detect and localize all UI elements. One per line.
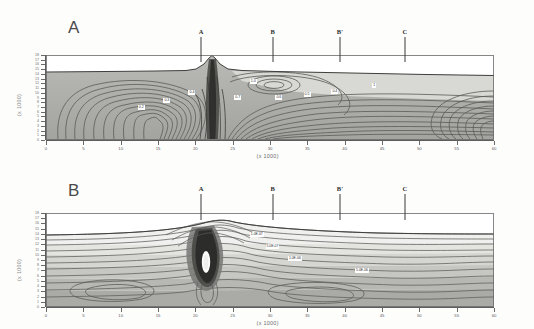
- x-axis-tick-label: 60: [484, 313, 504, 318]
- x-axis-tick-label: 30: [260, 146, 280, 151]
- y-axis-tick: [41, 218, 45, 219]
- section-marker-stem: [404, 37, 405, 62]
- panel-a-plot-area: 0.20.30.41.00.70.60.50.41: [46, 55, 494, 140]
- y-axis-tick-label: 8: [24, 100, 39, 104]
- y-axis-tick: [41, 281, 45, 282]
- x-axis-tick: [382, 308, 383, 312]
- section-marker-label: C: [403, 185, 408, 192]
- contour-value-label: 5.0E-06: [355, 268, 369, 273]
- y-axis-tick: [41, 250, 45, 251]
- x-axis-tick-label: 15: [148, 313, 168, 318]
- y-axis-tick-label: 12: [24, 81, 39, 85]
- contour-value-label: 0.4: [188, 90, 195, 95]
- section-marker-c: C: [404, 28, 405, 53]
- y-axis-tick: [41, 83, 45, 84]
- y-axis-tick-label: 9: [24, 258, 39, 262]
- x-axis-tick-label: 60: [484, 146, 504, 151]
- y-axis-tick: [41, 74, 45, 75]
- y-axis-tick: [41, 239, 45, 240]
- x-axis-tick-label: 55: [447, 146, 467, 151]
- section-marker-label: B': [337, 185, 343, 192]
- x-axis-tick-label: 5: [73, 313, 93, 318]
- y-axis-tick: [41, 64, 45, 65]
- y-axis-tick-label: 6: [24, 274, 39, 278]
- y-axis-tick-label: 8: [24, 263, 39, 267]
- y-axis-tick: [41, 297, 45, 298]
- y-axis-tick: [41, 93, 45, 94]
- y-axis-tick-label: 16: [24, 221, 39, 225]
- y-axis-tick-label: 15: [24, 67, 39, 71]
- y-axis-tick-label: 13: [24, 77, 39, 81]
- y-axis-tick: [41, 229, 45, 230]
- section-marker-stem: [201, 194, 202, 220]
- y-axis-tick: [41, 88, 45, 89]
- section-marker-label: B: [271, 185, 275, 192]
- y-axis-tick-label: 0: [24, 138, 39, 142]
- x-axis-tick-label: 30: [260, 313, 280, 318]
- y-axis-tick: [41, 121, 45, 122]
- section-marker-stem: [272, 194, 273, 220]
- x-axis-tick-label: 0: [36, 313, 56, 318]
- x-axis-tick: [382, 141, 383, 145]
- section-marker-label: C: [403, 28, 408, 35]
- section-marker-b-prime: B': [339, 185, 340, 211]
- y-axis-tick-label: 4: [24, 284, 39, 288]
- x-axis-tick: [419, 308, 420, 312]
- section-marker-b: B: [272, 28, 273, 53]
- section-marker-b-prime: B': [339, 28, 340, 53]
- x-axis-tick-label: 45: [372, 146, 392, 151]
- section-marker-c: C: [404, 185, 405, 211]
- y-axis-tick-label: 17: [24, 216, 39, 220]
- x-axis-tick-label: 40: [335, 146, 355, 151]
- y-axis-tick-label: 0: [24, 305, 39, 309]
- y-axis-tick: [41, 276, 45, 277]
- x-axis-tick: [46, 141, 47, 145]
- y-axis-tick-label: 2: [24, 295, 39, 299]
- x-axis-tick: [270, 308, 271, 312]
- y-axis-tick-label: 3: [24, 124, 39, 128]
- x-axis-tick: [457, 141, 458, 145]
- x-axis-tick: [233, 141, 234, 145]
- section-marker-label: A: [199, 185, 204, 192]
- section-marker-label: B': [337, 28, 343, 35]
- y-axis-tick-label: 11: [24, 248, 39, 252]
- x-axis-tick: [419, 141, 420, 145]
- y-axis-tick-label: 14: [24, 232, 39, 236]
- contour-value-label: 0.3: [163, 98, 170, 103]
- section-marker-label: B: [271, 28, 275, 35]
- section-marker-stem: [339, 37, 340, 62]
- y-axis-line: [45, 55, 46, 140]
- y-axis-tick: [41, 234, 45, 235]
- panel-a-letter: A: [68, 18, 80, 38]
- y-axis-tick-label: 5: [24, 114, 39, 118]
- y-axis-tick: [41, 107, 45, 108]
- y-axis-tick-label: 12: [24, 242, 39, 246]
- contour-value-label: 0.4: [331, 89, 338, 94]
- y-axis-tick: [41, 102, 45, 103]
- contour-value-label: 0.5: [304, 92, 311, 97]
- x-axis-tick-label: 40: [335, 313, 355, 318]
- y-axis-tick: [41, 55, 45, 56]
- y-axis-tick: [41, 126, 45, 127]
- y-axis-tick-label: 16: [24, 62, 39, 66]
- y-axis-tick: [41, 98, 45, 99]
- y-axis-tick: [41, 270, 45, 271]
- y-axis-tick-label: 18: [24, 53, 39, 57]
- x-axis-tick: [83, 308, 84, 312]
- y-axis-tick-label: 5: [24, 279, 39, 283]
- x-axis-tick-label: 50: [409, 313, 429, 318]
- panel-a: A (x 1000) (x 1000): [0, 0, 534, 164]
- panel-a-y-axis-title: (x 1000): [16, 94, 22, 116]
- contour-value-label: 0.7: [234, 95, 241, 100]
- section-marker-stem: [404, 194, 405, 220]
- x-axis-tick-label: 15: [148, 146, 168, 151]
- x-axis-tick-label: 10: [111, 146, 131, 151]
- section-marker-stem: [272, 37, 273, 62]
- panel-b-y-axis-title: (x 1000): [16, 258, 22, 280]
- x-axis-tick-label: 0: [36, 146, 56, 151]
- x-axis-tick: [83, 141, 84, 145]
- x-axis-tick: [345, 141, 346, 145]
- section-marker-b: B: [272, 185, 273, 211]
- x-axis-tick-label: 20: [185, 313, 205, 318]
- panel-b: B (x 1000) (x 1000): [0, 165, 534, 329]
